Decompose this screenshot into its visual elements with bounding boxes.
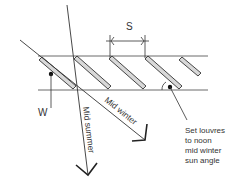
- svg-text:Set louvres: Set louvres: [185, 126, 225, 135]
- spacing-dimension: [106, 35, 149, 58]
- louvre-sun-angle-diagram: S W Mid winter Mid summer Set louvres to…: [0, 0, 250, 190]
- louvre-5: [179, 57, 201, 76]
- svg-text:to noon: to noon: [185, 136, 212, 145]
- mid-summer-label: Mid summer: [81, 106, 97, 154]
- note-leader: [170, 87, 187, 120]
- mid-winter-arrowhead: [132, 124, 147, 141]
- width-label: W: [38, 107, 48, 118]
- louvre-2: [74, 56, 111, 89]
- louvre-setting-note: Set louvres to noon mid winter sun angle: [185, 126, 225, 165]
- louvres: [39, 56, 201, 89]
- svg-text:sun angle: sun angle: [185, 156, 220, 165]
- svg-text:mid winter: mid winter: [185, 146, 222, 155]
- spacing-label: S: [126, 21, 133, 32]
- louvre-1: [39, 57, 76, 89]
- sun-angle-arc: [162, 82, 166, 90]
- louvre-3: [109, 56, 146, 89]
